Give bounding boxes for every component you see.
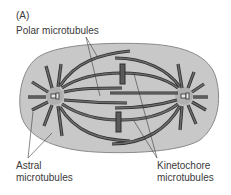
chromosome-top xyxy=(120,64,125,84)
left-centrioles xyxy=(51,93,59,99)
polar-microtubules-label: Polar microtubules xyxy=(16,25,99,37)
astral-label-line2: microtubules xyxy=(16,172,73,184)
astral-microtubules-label: Astral microtubules xyxy=(16,160,73,184)
chromosome-bottom xyxy=(116,112,121,132)
kinetochore-label-line1: Kinetochore xyxy=(157,160,214,172)
right-centrioles xyxy=(181,93,189,99)
astral-label-line1: Astral xyxy=(16,160,73,172)
mitotic-spindle-figure: (A) Polar microtubules Astral microtubul… xyxy=(0,0,231,195)
kinetochore-microtubules-label: Kinetochore microtubules xyxy=(157,160,214,184)
panel-label: (A) xyxy=(16,10,29,22)
kinetochore-label-line2: microtubules xyxy=(157,172,214,184)
